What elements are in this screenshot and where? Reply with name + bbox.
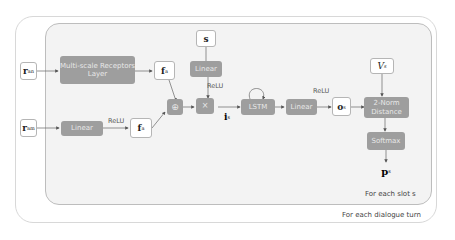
input-r-a-n: ran: [20, 62, 37, 80]
multiscale-receptors-node: Multi-scale Receptors Layer: [60, 56, 135, 84]
concat-node: ⊕: [167, 99, 183, 115]
linear-s-node: Linear: [190, 61, 222, 77]
input-s: s: [196, 30, 216, 47]
var-i-s: is: [221, 111, 233, 123]
linear-a-node: Linear: [61, 121, 103, 136]
softmax-node: Softmax: [367, 132, 405, 150]
var-f-a-bottom: fa: [130, 118, 152, 138]
linear-o-node: Linear: [286, 99, 317, 115]
turn-caption: For each dialogue turn: [342, 211, 421, 219]
output-p-s: ps: [375, 164, 397, 178]
relu-label-s: ReLU: [207, 82, 223, 90]
multiply-node: ×: [196, 98, 214, 114]
relu-label-o: ReLU: [313, 87, 329, 95]
lstm-node: LSTM: [241, 99, 275, 115]
slot-caption: For each slot s: [365, 190, 416, 198]
input-r-a-m: ram: [20, 119, 37, 137]
norm-distance-node: 2-Norm Distance: [364, 97, 409, 118]
var-f-a-top: fa: [154, 61, 175, 80]
input-V-s: Vs: [370, 58, 394, 74]
var-o-s: os: [332, 97, 351, 116]
relu-label-a: ReLU: [108, 117, 124, 125]
